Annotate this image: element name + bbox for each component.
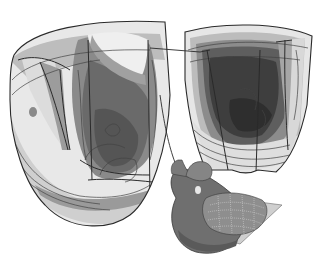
left-ventricle-section — [0, 0, 200, 240]
heart-model-inset — [171, 160, 282, 253]
ventricle-surface — [203, 193, 267, 235]
figure-canvas — [0, 0, 331, 267]
vessel-opening — [195, 186, 201, 194]
heart-contour-illustration — [0, 0, 331, 267]
pulmonary-trunk — [186, 162, 212, 181]
